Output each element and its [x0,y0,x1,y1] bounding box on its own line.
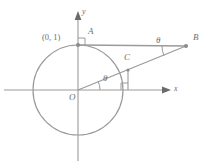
angle-label-theta-origin: θ [103,74,107,83]
point-B-dot [184,44,188,48]
segment-OB [78,46,186,90]
angle-label-theta-at-B: θ [156,36,160,45]
x-axis-arrow-icon [162,87,171,94]
point-A-dot [76,43,80,47]
segment-AB [78,45,186,46]
x-axis-group [4,87,171,94]
y-axis-arrow-icon [75,11,82,20]
x-axis-label: x [174,85,178,93]
geometry-figure-canvas: y x A B C O (0, 1) θ θ [0,0,212,166]
y-axis-group [75,11,82,161]
diagram-svg [0,0,212,166]
point-label-C: C [124,53,130,62]
angle-arc-at-origin [98,81,100,90]
point-A-coordinates-label: (0, 1) [42,33,60,42]
y-axis-label: y [82,8,86,16]
point-C-dot [126,68,129,71]
point-label-A: A [88,27,94,36]
point-label-B: B [193,33,199,42]
point-label-O: O [69,93,76,102]
angle-arc-at-B [162,46,164,56]
